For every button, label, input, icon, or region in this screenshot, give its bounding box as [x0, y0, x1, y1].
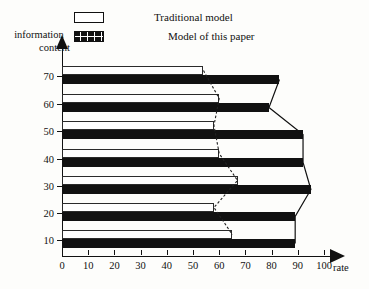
legend-item-model-of-this-paper: Model of this paper [74, 30, 254, 42]
x-axis-tick [114, 250, 115, 255]
x-axis-tick [167, 250, 168, 255]
bar-model-of-this-paper [62, 212, 295, 221]
bar-traditional-model [62, 149, 219, 158]
x-axis-tick [324, 250, 325, 255]
y-axis-tick-label: 50 [28, 126, 54, 137]
y-axis-tick-label: 40 [28, 154, 54, 165]
bar-traditional-model [62, 176, 238, 185]
y-axis-arrow-icon [56, 35, 68, 49]
y-axis-tick-label: 20 [28, 208, 54, 219]
x-axis-tick [219, 250, 220, 255]
y-axis-tick-label: 30 [28, 181, 54, 192]
x-axis-tick-label: 20 [109, 260, 120, 271]
x-axis-tick-label: 70 [240, 260, 251, 271]
x-axis-line [62, 256, 332, 258]
x-axis-tick-label: 80 [266, 260, 277, 271]
x-axis-tick [141, 250, 142, 255]
bar-model-of-this-paper [62, 130, 303, 139]
x-axis-tick [62, 250, 63, 255]
x-axis-title: rate [333, 262, 349, 273]
bar-model-of-this-paper [62, 158, 303, 167]
bar-traditional-model [62, 66, 203, 75]
x-axis-tick [245, 250, 246, 255]
bar-traditional-model [62, 230, 232, 239]
chart-root: Traditional model Model of this paper in… [0, 0, 369, 289]
y-axis-tick-label: 60 [28, 99, 54, 110]
x-axis-tick-label: 10 [83, 260, 94, 271]
x-axis-tick [193, 250, 194, 255]
open-rectangle-icon [74, 12, 104, 23]
legend-item-traditional-model: Traditional model [74, 11, 233, 23]
bar-model-of-this-paper [62, 185, 311, 194]
x-axis-tick-label: 90 [293, 260, 304, 271]
x-axis-tick [298, 250, 299, 255]
x-axis-arrow-icon [330, 249, 345, 263]
x-axis-tick-label: 50 [188, 260, 199, 271]
x-axis-tick-label: 0 [59, 260, 64, 271]
bar-traditional-model [62, 203, 214, 212]
legend-label-model-of-this-paper: Model of this paper [168, 30, 254, 42]
bar-model-of-this-paper [62, 239, 295, 248]
bar-model-of-this-paper [62, 103, 269, 112]
x-axis-tick [88, 250, 89, 255]
legend-label-traditional-model: Traditional model [154, 11, 233, 23]
bar-model-of-this-paper [62, 75, 279, 84]
y-axis-tick-label: 10 [28, 235, 54, 246]
hatched-rectangle-icon [74, 31, 104, 42]
x-axis-tick-label: 100 [316, 260, 332, 271]
x-axis-tick-label: 40 [162, 260, 173, 271]
bar-traditional-model [62, 121, 214, 130]
x-axis-tick-label: 60 [214, 260, 225, 271]
y-axis-tick-label: 70 [28, 71, 54, 82]
bar-traditional-model [62, 94, 219, 103]
x-axis-tick-label: 30 [135, 260, 146, 271]
x-axis-tick [272, 250, 273, 255]
